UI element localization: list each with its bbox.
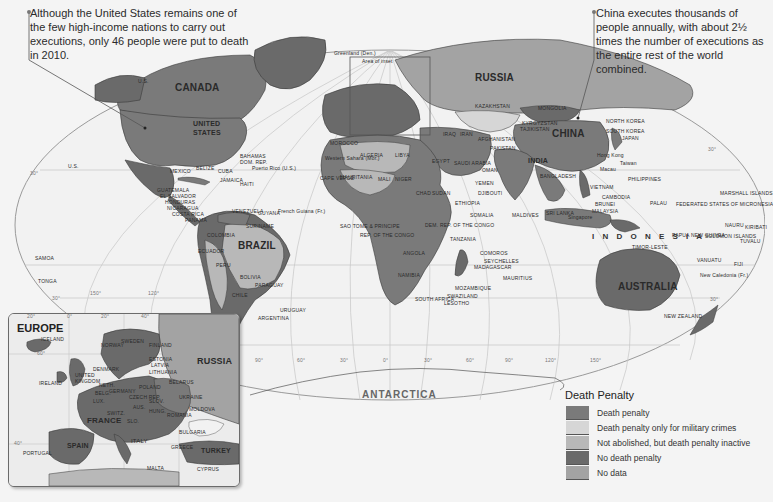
label-us-alaska: U.S. — [138, 78, 149, 84]
label-samoa: SAMOA — [35, 255, 54, 261]
label-philippines: PHILIPPINES — [628, 176, 661, 182]
label-timor-leste: TIMOR-LESTE — [632, 244, 668, 250]
label-peru: PERU — [216, 262, 231, 268]
label-iraq: IRAQ — [443, 131, 456, 137]
label-canada: CANADA — [175, 82, 220, 93]
legend-swatch — [566, 421, 589, 435]
inset-lat-60n: 60° — [37, 350, 45, 356]
label-brunei: BRUNEI — [595, 201, 615, 207]
legend-swatch — [566, 466, 589, 480]
legend-label: Not abolished, but death penalty inactiv… — [597, 438, 750, 448]
inset-label-russia: RUSSIA — [197, 356, 232, 366]
label-hong-kong: Hong Kong — [597, 152, 624, 158]
label-panama: PANAMA — [185, 217, 207, 223]
inset-label-malta: MALTA — [147, 465, 164, 471]
label-sudan: SUDAN — [432, 190, 451, 196]
inset-label-ukraine: UKRAINE — [179, 394, 203, 400]
label-new-zealand: NEW ZEALAND — [664, 313, 702, 319]
label-madagascar: MADAGASCAR — [474, 264, 512, 270]
label-palau: PALAU — [650, 200, 667, 206]
label-namibia: NAMIBIA — [398, 272, 420, 278]
lon-label-150e: 150° — [590, 357, 601, 363]
legend-label: No data — [597, 468, 627, 478]
label-australia: AUSTRALIA — [618, 281, 678, 292]
lon-label-150w: 150° — [90, 290, 101, 296]
label-djibouti: DJIBOUTI — [478, 190, 502, 196]
inset-label-portugal: PORTUGAL — [23, 450, 52, 456]
inset-label-hungary: HUNG. — [149, 408, 166, 414]
label-japan: JAPAN — [622, 135, 639, 141]
inset-label-turkey: TURKEY — [201, 447, 231, 454]
label-brazil: BRAZIL — [238, 240, 276, 251]
country-united-states — [120, 110, 247, 167]
callout-china: China executes thousands of people annua… — [596, 6, 771, 76]
legend-label: Death penalty only for military crimes — [597, 423, 736, 433]
inset-label-lux: LUX. — [93, 398, 105, 404]
label-tuvalu: TUVALU — [740, 238, 761, 244]
inset-label-moldova: MOLDOVA — [189, 406, 215, 412]
lat-label-30n-right: 30° — [708, 146, 716, 152]
legend-swatch — [566, 406, 589, 420]
legend-item-inactive: Not abolished, but death penalty inactiv… — [566, 435, 766, 450]
legend-swatch — [566, 436, 589, 450]
label-russia: RUSSIA — [475, 72, 514, 83]
inset-label-slovakia: SLOV. — [149, 398, 164, 404]
legend-label: Death penalty — [597, 408, 649, 418]
label-vietnam: VIETNAM — [590, 184, 614, 190]
label-paraguay: PARAGUAY — [255, 282, 284, 288]
inset-lon-0: 0° — [67, 313, 72, 319]
inset-label-france: FRANCE — [87, 416, 122, 425]
label-dem-rep-congo: DEM. REP. OF THE CONGO — [425, 222, 494, 228]
label-pakistan: PAKISTAN — [490, 145, 516, 151]
legend: Death Penalty Death penalty Death penalt… — [566, 389, 766, 480]
inset-label-finland: FINLAND — [149, 342, 172, 348]
inset-title: EUROPE — [17, 322, 63, 334]
label-tajikistan: TAJIKISTAN — [520, 126, 550, 132]
label-afghanistan: AFGHANISTAN — [478, 136, 515, 142]
label-taiwan: Taiwan — [620, 160, 637, 166]
label-comoros: COMOROS — [480, 250, 508, 256]
label-suriname: SURINAME — [246, 223, 274, 229]
label-morocco: MOROCCO — [330, 140, 358, 146]
label-bolivia: BOLIVIA — [240, 274, 261, 280]
label-united-states-line1: UNITED — [193, 120, 220, 127]
inset-label-italy: ITALY — [131, 438, 148, 444]
label-maldives: MALDIVES — [512, 212, 539, 218]
lon-label-90w: 90° — [255, 357, 263, 363]
callout-us-target-dot — [144, 127, 147, 130]
label-vanuatu: VANUATU — [697, 257, 722, 263]
label-micronesia: FEDERATED STATES OF MICRONESIA — [676, 201, 773, 207]
label-puerto-rico: Puerto Rico (U.S.) — [252, 165, 296, 171]
label-kiribati: KIRIBATI — [745, 224, 767, 230]
lon-label-30w: 30° — [340, 357, 348, 363]
label-mauritius: MAURITIUS — [503, 275, 532, 281]
label-india: INDIA — [528, 157, 548, 164]
legend-title: Death Penalty — [565, 389, 766, 401]
inset-label-iceland: ICELAND — [41, 336, 64, 342]
callout-china-target-dot — [577, 117, 580, 120]
label-guyana: GUYANA — [258, 210, 280, 216]
lon-label-30e: 30° — [424, 357, 432, 363]
inset-label-bulgaria: BULGARIA — [179, 429, 206, 435]
label-haiti: HAITI — [240, 181, 254, 187]
label-indonesia: I N D O N E S I A — [592, 232, 705, 241]
label-yemen: YEMEN — [475, 180, 494, 186]
inset-label-slovenia: SLO. — [127, 418, 139, 424]
lon-label-0: 0° — [383, 357, 388, 363]
label-kazakhstan: KAZAKHSTAN — [475, 103, 510, 109]
inset-label-greece: GREECE — [171, 444, 193, 450]
label-new-caledonia: New Caledonia (Fr.) — [700, 272, 748, 278]
label-malaysia: MALAYSIA — [592, 208, 618, 214]
region-europe — [322, 84, 420, 139]
europe-inset-map: EUROPE 20° 0° 20° 40° 60° 40° ICELAND NO… — [8, 313, 240, 487]
legend-item-no-death-penalty: No death penalty — [566, 450, 766, 465]
label-iran: IRAN — [460, 131, 473, 137]
lon-label-90e: 90° — [505, 357, 513, 363]
label-colombia: COLOMBIA — [207, 232, 235, 238]
label-mexico: MEXICO — [170, 168, 191, 174]
label-oman: OMAN — [482, 167, 498, 173]
label-tonga: TONGA — [38, 278, 57, 284]
legend-item-no-data: No data — [566, 465, 766, 480]
inset-lon-20w: 20° — [27, 313, 35, 319]
